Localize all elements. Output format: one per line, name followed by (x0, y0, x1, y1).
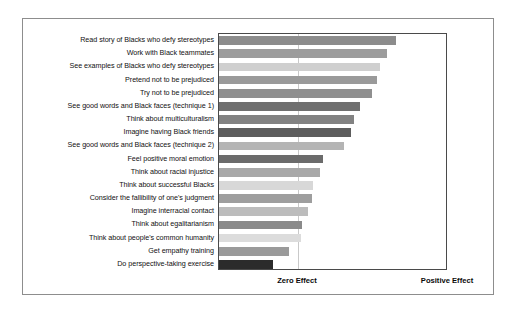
category-label: Pretend not to be prejudiced (125, 73, 214, 86)
bar-row (219, 192, 448, 205)
bar-row (219, 47, 448, 60)
bar-row (219, 245, 448, 258)
category-label: See good words and Black faces (techniqu… (68, 99, 214, 112)
category-label: Feel positive moral emotion (127, 152, 214, 165)
bar-row (219, 113, 448, 126)
category-label: Do perspective-taking exercise (117, 257, 214, 270)
category-label: Think about racial injustice (131, 165, 214, 178)
axis-annotation-zero-effect: Zero Effect (277, 276, 317, 285)
bar (219, 36, 396, 45)
figure-container: Read story of Blacks who defy stereotype… (0, 0, 511, 319)
bar-row (219, 218, 448, 231)
category-label: Work with Black teammates (127, 46, 214, 59)
bar (219, 168, 320, 177)
category-label: Think about multiculturalism (126, 112, 214, 125)
bar (219, 49, 387, 58)
bar-row (219, 153, 448, 166)
bar-row (219, 126, 448, 139)
bar-row (219, 179, 448, 192)
bar-row (219, 232, 448, 245)
bars-layer (219, 34, 446, 269)
bar (219, 102, 360, 111)
bar-row (219, 60, 448, 73)
bar (219, 247, 289, 256)
bar-row (219, 87, 448, 100)
bar (219, 115, 354, 124)
category-label: Read story of Blacks who defy stereotype… (80, 33, 214, 46)
bar-row (219, 34, 448, 47)
category-label: Imagine having Black friends (124, 125, 215, 138)
bar (219, 207, 308, 216)
category-label: Try not to be prejudiced (140, 86, 214, 99)
category-label: Think about people's common humanity (89, 231, 214, 244)
bar (219, 155, 323, 164)
bar (219, 221, 302, 230)
plot-area (218, 33, 447, 270)
bar-row (219, 166, 448, 179)
bar-row (219, 74, 448, 87)
bar (219, 76, 377, 85)
bar-row (219, 100, 448, 113)
bar-row (219, 139, 448, 152)
category-label: Imagine interracial contact (131, 204, 214, 217)
bar-row (219, 205, 448, 218)
category-labels-column: Read story of Blacks who defy stereotype… (24, 33, 216, 270)
category-label: Consider the fallibility of one's judgme… (90, 191, 214, 204)
bar-row (219, 258, 448, 271)
bar (219, 260, 273, 269)
bar (219, 234, 301, 243)
category-label: See good words and Black faces (techniqu… (68, 138, 214, 151)
bar (219, 194, 312, 203)
bar (219, 142, 344, 151)
category-label: Think about egalitarianism (131, 217, 214, 230)
category-label: Get empathy training (148, 244, 214, 257)
bar (219, 63, 380, 72)
category-label: See examples of Blacks who defy stereoty… (70, 59, 214, 72)
bar (219, 89, 372, 98)
bar (219, 181, 313, 190)
axis-annotation-positive-effect: Positive Effect (421, 276, 473, 285)
category-label: Think about successful Blacks (119, 178, 214, 191)
bar (219, 128, 351, 137)
